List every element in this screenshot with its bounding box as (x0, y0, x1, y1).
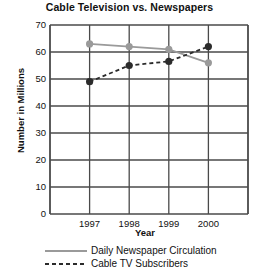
x-tick-label: 1997 (70, 218, 110, 229)
y-tick-label: 50 (20, 73, 46, 84)
gridlines (50, 25, 248, 214)
y-tick-label: 60 (20, 46, 46, 57)
x-tick-label: 2000 (188, 218, 228, 229)
legend-swatch-dashed-line (44, 258, 88, 270)
chart-legend: Daily Newspaper Circulation Cable TV Sub… (44, 244, 259, 270)
x-tick-label: 1998 (109, 218, 149, 229)
x-tick-label: 1999 (149, 218, 189, 229)
legend-item-cable: Cable TV Subscribers (44, 257, 259, 270)
y-tick-label: 20 (20, 154, 46, 165)
y-tick-label: 40 (20, 100, 46, 111)
y-tick-label: 0 (20, 208, 46, 219)
legend-label-newspaper: Daily Newspaper Circulation (88, 245, 217, 256)
y-tick-label: 30 (20, 127, 46, 138)
legend-swatch-solid-line (44, 245, 88, 257)
legend-item-newspaper: Daily Newspaper Circulation (44, 244, 259, 257)
y-tick-label: 10 (20, 181, 46, 192)
legend-label-cable: Cable TV Subscribers (88, 258, 188, 269)
chart-container: Cable Television vs. Newspapers Number i… (0, 0, 259, 275)
y-tick-label: 70 (20, 19, 46, 30)
